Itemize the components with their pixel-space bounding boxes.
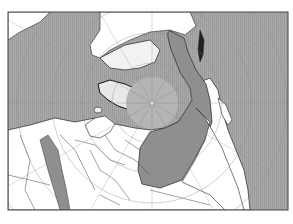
map-canvas bbox=[0, 0, 293, 224]
iceland bbox=[94, 107, 102, 113]
north-pole-marker bbox=[151, 102, 154, 105]
polar-map bbox=[0, 0, 293, 224]
